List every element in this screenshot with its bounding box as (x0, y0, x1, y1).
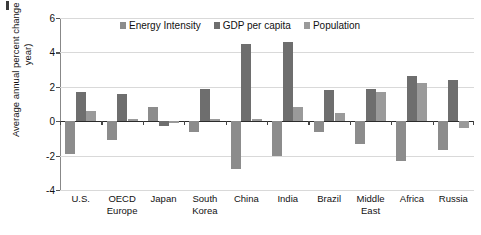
bar-population-china (252, 119, 262, 121)
y-axis-title: Average annual percent change (% per yea… (10, 0, 33, 140)
y-axis-tick-label: 4 (49, 47, 55, 58)
x-axis-label-line: India (267, 193, 308, 205)
x-axis-label-line: East (350, 205, 391, 217)
bar-population-south-korea (210, 119, 220, 121)
bar-group (350, 18, 391, 190)
x-axis-label: China (226, 193, 267, 216)
x-axis-label-line: OECD (101, 193, 142, 205)
x-axis-tick-mark (350, 121, 351, 125)
bar-population-russia (459, 121, 469, 128)
x-axis-label: OECDEurope (101, 193, 142, 216)
x-axis-label-line: Japan (143, 193, 184, 205)
x-axis-label: Japan (143, 193, 184, 216)
bar-group (391, 18, 432, 190)
y-axis-tick-label: 2 (49, 81, 55, 92)
y-axis-tick-label: -2 (46, 150, 55, 161)
bar-gdp-per-capita-u-s- (76, 92, 86, 121)
bar-group (308, 18, 349, 190)
bar-energy-intensity-india (272, 121, 282, 155)
x-axis-tick-mark (143, 121, 144, 125)
x-axis-tick-mark (391, 121, 392, 125)
x-axis-tick-mark (60, 121, 61, 125)
y-axis-tick-label: -4 (46, 185, 55, 196)
y-axis-tick-mark (56, 190, 60, 191)
bar-group (143, 18, 184, 190)
bar-gdp-per-capita-russia (448, 80, 458, 121)
bar-energy-intensity-middle-east (355, 121, 365, 143)
x-axis-tick-mark (226, 121, 227, 125)
bar-groups (60, 18, 474, 190)
x-axis-labels: U.S.OECDEuropeJapanSouthKoreaChinaIndiaB… (60, 193, 474, 216)
bar-energy-intensity-oecd-europe (107, 121, 117, 140)
x-axis-label: U.S. (60, 193, 101, 216)
plot-area: 6420-2-4 (60, 18, 474, 190)
x-axis-label: Brazil (308, 193, 349, 216)
x-axis-label: SouthKorea (184, 193, 225, 216)
bar-group (184, 18, 225, 190)
x-axis-label-line: Korea (184, 205, 225, 217)
x-axis-tick-mark (473, 121, 474, 125)
bar-energy-intensity-russia (438, 121, 448, 150)
bar-group (226, 18, 267, 190)
bar-energy-intensity-brazil (314, 121, 324, 131)
bar-gdp-per-capita-india (283, 42, 293, 121)
y-axis-tick-label: 6 (49, 13, 55, 24)
energy-decomposition-bar-chart: Average annual percent change (% per yea… (0, 0, 481, 235)
x-axis-label: MiddleEast (350, 193, 391, 216)
x-axis-tick-mark (433, 121, 434, 125)
x-axis-label-line: Middle (350, 193, 391, 205)
x-axis-tick-mark (308, 121, 309, 125)
x-axis-label-line: Russia (433, 193, 474, 205)
bar-gdp-per-capita-japan (159, 121, 169, 126)
bar-gdp-per-capita-brazil (324, 90, 334, 121)
bar-population-japan (169, 121, 179, 123)
gridline (60, 190, 474, 191)
bar-population-middle-east (376, 92, 386, 121)
bar-energy-intensity-south-korea (189, 121, 199, 131)
x-axis-label: Africa (391, 193, 432, 216)
bar-gdp-per-capita-south-korea (200, 89, 210, 122)
x-axis-label: India (267, 193, 308, 216)
x-axis-label-line: U.S. (60, 193, 101, 205)
bar-gdp-per-capita-china (241, 44, 251, 121)
bar-population-u-s- (86, 111, 96, 121)
y-axis-tick-label: 0 (49, 116, 55, 127)
bar-group (101, 18, 142, 190)
x-axis-label-line: South (184, 193, 225, 205)
bar-group (267, 18, 308, 190)
x-axis-tick-mark (184, 121, 185, 125)
x-axis-label: Russia (433, 193, 474, 216)
bar-gdp-per-capita-africa (407, 76, 417, 121)
x-axis-tick-mark (267, 121, 268, 125)
x-axis-label-line: China (226, 193, 267, 205)
bar-energy-intensity-africa (396, 121, 406, 161)
bar-group (60, 18, 101, 190)
bar-population-india (293, 107, 303, 121)
bar-population-brazil (335, 113, 345, 122)
bar-gdp-per-capita-middle-east (366, 89, 376, 122)
bar-energy-intensity-u-s- (65, 121, 75, 154)
bar-population-oecd-europe (128, 119, 138, 121)
bar-group (433, 18, 474, 190)
bar-population-africa (417, 83, 427, 121)
x-axis-label-line: Africa (391, 193, 432, 205)
bar-energy-intensity-japan (148, 107, 158, 122)
x-axis-label-line: Europe (101, 205, 142, 217)
x-axis-tick-mark (101, 121, 102, 125)
bar-energy-intensity-china (231, 121, 241, 169)
x-axis-label-line: Brazil (308, 193, 349, 205)
bar-gdp-per-capita-oecd-europe (117, 94, 127, 122)
